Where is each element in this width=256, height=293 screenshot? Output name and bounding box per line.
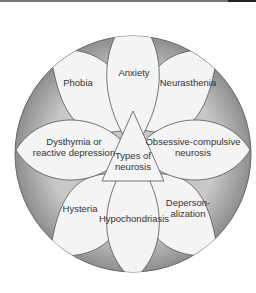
label-hysteria: Hysteria — [63, 203, 99, 214]
neurosis-diagram: Types of neurosis Anxiety Neurasthenia O… — [0, 0, 256, 293]
label-depersonalization-line2: alization — [171, 208, 206, 219]
label-hypochondriasis: Hypochondriasis — [99, 213, 169, 224]
center-label-line2: neurosis — [115, 161, 151, 172]
label-anxiety: Anxiety — [118, 67, 149, 78]
label-ocd-line2: neurosis — [175, 147, 211, 158]
label-ocd-line1: Obsessive-compulsive — [145, 136, 240, 147]
label-phobia: Phobia — [63, 77, 93, 88]
label-neurasthenia: Neurasthenia — [160, 77, 217, 88]
label-dysthymia-line1: Dysthymia or — [46, 136, 101, 147]
label-dysthymia-line2: reactive depression — [33, 147, 115, 158]
center-label-line1: Types of — [115, 150, 151, 161]
label-depersonalization-line1: Deperson- — [166, 197, 210, 208]
